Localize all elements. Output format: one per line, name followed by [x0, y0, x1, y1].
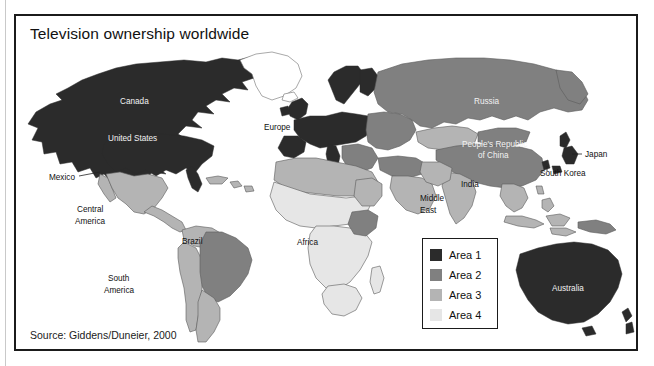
- legend-item-area-4: Area 4: [430, 305, 497, 325]
- legend-item-area-2: Area 2: [430, 265, 497, 285]
- legend-swatch-area-2: [430, 269, 442, 281]
- label-europe: Europe: [264, 123, 291, 132]
- legend-item-area-1: Area 1: [430, 245, 497, 265]
- label-central-america-line2: America: [75, 217, 105, 226]
- legend-label-area-2: Area 2: [449, 269, 481, 281]
- legend-swatch-area-4: [430, 309, 442, 321]
- label-australia: Australia: [552, 284, 584, 293]
- label-middle-east-line1: Middle: [420, 194, 445, 203]
- label-united-states: United States: [108, 134, 157, 143]
- legend-swatch-area-3: [430, 289, 442, 301]
- label-japan: Japan: [585, 150, 608, 159]
- world-map: .a1 { fill:#2b2b2b; stroke:#2b2b2b; stro…: [16, 16, 636, 349]
- label-south-america-line2: America: [104, 286, 134, 295]
- label-brazil: Brazil: [182, 237, 203, 246]
- legend-label-area-3: Area 3: [449, 289, 481, 301]
- figure-title: Television ownership worldwide: [30, 25, 249, 43]
- label-india: India: [461, 180, 479, 189]
- label-south-america-line1: South: [108, 274, 130, 283]
- label-south-korea: South Korea: [540, 169, 586, 178]
- label-africa: Africa: [297, 238, 318, 247]
- region-north-america: [28, 52, 302, 232]
- region-africa: [270, 158, 384, 316]
- map-legend: Area 1 Area 2 Area 3 Area 4: [422, 238, 498, 329]
- legend-item-area-3: Area 3: [430, 285, 497, 305]
- legend-label-area-4: Area 4: [449, 309, 481, 321]
- label-canada: Canada: [120, 97, 149, 106]
- legend-label-area-1: Area 1: [449, 249, 481, 261]
- label-russia: Russia: [474, 97, 499, 106]
- page-margin-rule: [5, 0, 6, 366]
- label-china-line1: People's Republic: [462, 140, 527, 149]
- label-central-america-line1: Central: [77, 205, 104, 214]
- figure-frame: .a1 { fill:#2b2b2b; stroke:#2b2b2b; stro…: [14, 14, 638, 351]
- figure-source: Source: Giddens/Duneier, 2000: [30, 329, 177, 341]
- legend-swatch-area-1: [430, 249, 442, 261]
- label-china-line2: of China: [478, 151, 509, 160]
- label-mexico: Mexico: [49, 173, 75, 182]
- label-middle-east-line2: East: [420, 206, 437, 215]
